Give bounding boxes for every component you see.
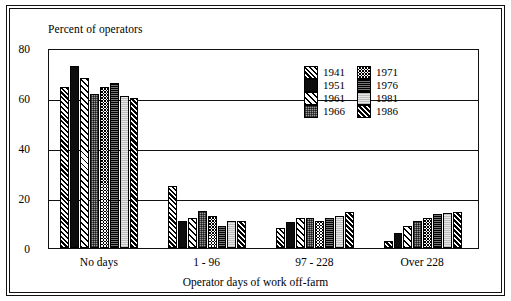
legend-item-1981: 1981	[357, 92, 398, 105]
legend-column: 1941195119611966	[304, 66, 345, 118]
y-axis-tick-label: 40	[0, 143, 30, 155]
bar-1976-Over-228	[433, 214, 442, 248]
bar-1966-Over-228	[413, 221, 422, 249]
bar-group	[60, 50, 139, 248]
bar-1971-Over-228	[423, 218, 432, 248]
bar-1961-1---96	[188, 218, 197, 248]
legend: 19411951196119661971197619811986	[304, 66, 398, 118]
bar-1986-1---96	[237, 221, 246, 249]
legend-column: 1971197619811986	[357, 66, 398, 118]
x-axis-tick-label: 97 - 228	[295, 256, 333, 268]
figure: Percent of operators 020406080 No days1 …	[0, 0, 511, 301]
bar-1971-1---96	[208, 216, 217, 249]
y-axis-title: Percent of operators	[48, 23, 143, 35]
bar-1981-No-days	[120, 96, 129, 249]
legend-item-1961: 1961	[304, 92, 345, 105]
bar-1941-97---228	[276, 228, 285, 248]
legend-label-1981: 1981	[376, 92, 398, 105]
legend-swatch-1941	[304, 66, 318, 79]
legend-label-1941: 1941	[323, 66, 345, 79]
bar-1971-No-days	[100, 87, 109, 248]
bar-1941-Over-228	[384, 241, 393, 249]
bar-1951-No-days	[70, 66, 79, 249]
bar-1976-1---96	[218, 226, 227, 249]
figure-border: Percent of operators 020406080 No days1 …	[6, 5, 505, 296]
bar-1941-No-days	[60, 87, 69, 248]
bar-1966-97---228	[306, 218, 315, 248]
x-axis-tick-label: No days	[80, 256, 118, 268]
legend-item-1971: 1971	[357, 66, 398, 79]
bar-1961-No-days	[80, 78, 89, 248]
legend-label-1976: 1976	[376, 79, 398, 92]
legend-label-1951: 1951	[323, 79, 345, 92]
bar-1941-1---96	[168, 186, 177, 249]
legend-swatch-1966	[304, 105, 318, 118]
plot-area	[48, 49, 479, 249]
bar-1961-97---228	[296, 218, 305, 248]
legend-item-1941: 1941	[304, 66, 345, 79]
legend-label-1971: 1971	[376, 66, 398, 79]
y-axis-tick-label: 0	[0, 243, 30, 255]
legend-swatch-1971	[357, 66, 371, 79]
legend-swatch-1961	[304, 92, 318, 105]
legend-item-1976: 1976	[357, 79, 398, 92]
y-axis-tick-label: 20	[0, 193, 30, 205]
legend-item-1986: 1986	[357, 105, 398, 118]
legend-label-1961: 1961	[323, 92, 345, 105]
y-axis-tick-label: 60	[0, 93, 30, 105]
bar-1951-Over-228	[394, 233, 403, 248]
legend-swatch-1981	[357, 92, 371, 105]
bar-1966-No-days	[90, 94, 99, 248]
bar-group	[168, 50, 247, 248]
bar-1966-1---96	[198, 211, 207, 249]
x-axis-title: Operator days of work off-farm	[7, 276, 504, 288]
legend-label-1986: 1986	[376, 105, 398, 118]
bar-1976-97---228	[325, 218, 334, 248]
y-axis-tick-label: 80	[0, 43, 30, 55]
legend-swatch-1951	[304, 79, 318, 92]
bar-1951-97---228	[286, 222, 295, 248]
bar-1971-97---228	[315, 221, 324, 249]
x-axis-tick-label: 1 - 96	[193, 256, 220, 268]
legend-swatch-1986	[357, 105, 371, 118]
bar-1981-1---96	[227, 221, 236, 249]
bar-1986-Over-228	[453, 212, 462, 248]
x-axis-tick-label: Over 228	[401, 256, 444, 268]
bar-1986-97---228	[345, 212, 354, 248]
bar-1981-Over-228	[443, 213, 452, 248]
bar-1981-97---228	[335, 216, 344, 249]
legend-item-1966: 1966	[304, 105, 345, 118]
bar-1951-1---96	[178, 221, 187, 249]
bar-1961-Over-228	[403, 226, 412, 249]
bar-1986-No-days	[130, 98, 139, 248]
legend-label-1966: 1966	[323, 105, 345, 118]
legend-swatch-1976	[357, 79, 371, 92]
bar-1976-No-days	[110, 83, 119, 248]
legend-item-1951: 1951	[304, 79, 345, 92]
